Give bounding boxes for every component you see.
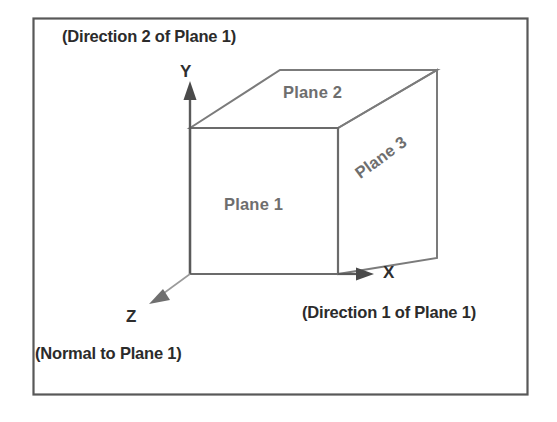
- figure-container: (Direction 2 of Plane 1) Y Plane 2 Plane…: [0, 0, 557, 422]
- z-axis-label: Z: [126, 308, 136, 325]
- normal-caption: (Normal to Plane 1): [35, 345, 182, 362]
- y-axis-label: Y: [180, 63, 191, 80]
- plane-1-label: Plane 1: [224, 196, 283, 213]
- z-axis-line: [164, 274, 190, 293]
- plane-2-label: Plane 2: [283, 84, 342, 101]
- y-axis-arrowhead: [184, 81, 197, 100]
- cube-right-face-plane3: [338, 70, 437, 274]
- direction-2-caption: (Direction 2 of Plane 1): [62, 28, 236, 45]
- direction-1-caption: (Direction 1 of Plane 1): [302, 304, 476, 321]
- x-axis-label: X: [383, 264, 394, 281]
